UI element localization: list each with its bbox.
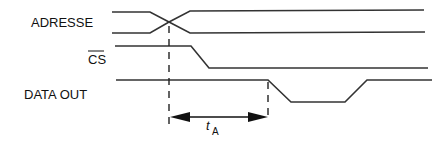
signal-label-data-out: DATA OUT [24, 87, 87, 102]
access-time-label: t [206, 118, 211, 133]
data-out-waveform [116, 80, 432, 102]
cs-waveform [115, 46, 428, 68]
signal-label-adresse: ADRESSE [31, 15, 93, 30]
timing-diagram: ADRESSE CS DATA OUT t A [0, 0, 445, 141]
access-time-arrow [170, 112, 268, 122]
adresse-waveform [112, 10, 425, 33]
signal-label-cs: CS [88, 52, 106, 67]
access-time-subscript: A [212, 126, 219, 137]
